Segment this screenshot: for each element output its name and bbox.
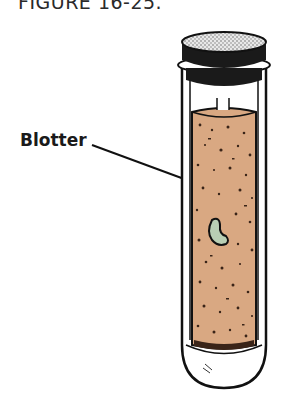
test-tube-illustration <box>0 0 289 407</box>
blotter <box>192 96 256 350</box>
stopper <box>178 32 270 86</box>
